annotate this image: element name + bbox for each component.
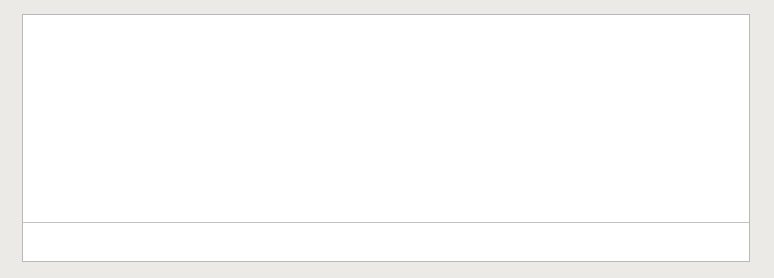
chart-card (22, 14, 750, 262)
sources-divider (23, 222, 749, 223)
line-chart (31, 45, 743, 231)
chart-plot-area (31, 45, 743, 231)
